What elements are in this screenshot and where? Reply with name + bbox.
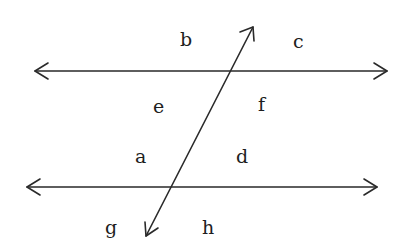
transversal-line bbox=[145, 27, 254, 236]
bottom-parallel-line bbox=[27, 179, 377, 195]
angle-label-e: e bbox=[153, 95, 164, 117]
angle-label-g: g bbox=[105, 216, 117, 238]
angle-label-f: f bbox=[258, 93, 267, 115]
top-parallel-line bbox=[35, 63, 387, 79]
angle-label-d: d bbox=[236, 145, 248, 167]
angle-label-h: h bbox=[202, 216, 214, 238]
angle-label-b: b bbox=[180, 28, 192, 50]
angle-label-a: a bbox=[135, 145, 146, 167]
parallel-lines-transversal-diagram: b c e f a d g h bbox=[0, 0, 396, 249]
angle-label-c: c bbox=[293, 30, 304, 52]
